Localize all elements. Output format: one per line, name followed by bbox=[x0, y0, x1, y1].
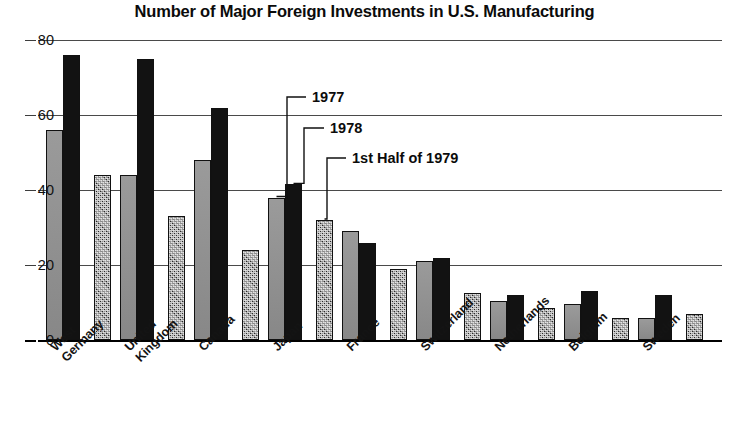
bar bbox=[120, 175, 137, 340]
bar bbox=[194, 160, 211, 340]
bar bbox=[612, 318, 629, 341]
bar bbox=[416, 261, 433, 340]
bar-group bbox=[490, 40, 555, 340]
chart-title: Number of Major Foreign Investments in U… bbox=[0, 2, 729, 21]
bar-group bbox=[638, 40, 703, 340]
y-tick-label-60: 60 bbox=[2, 107, 54, 123]
bar-group bbox=[268, 40, 333, 340]
bar bbox=[268, 198, 285, 341]
bar bbox=[285, 184, 302, 340]
bar bbox=[242, 250, 259, 340]
bar-group bbox=[416, 40, 481, 340]
callout-label: 1977 bbox=[312, 89, 344, 105]
bar-group bbox=[194, 40, 259, 340]
bar-group bbox=[46, 40, 111, 340]
plot-area bbox=[38, 40, 722, 340]
bar-group bbox=[564, 40, 629, 340]
bar bbox=[63, 55, 80, 340]
bar bbox=[686, 314, 703, 340]
y-tick-label-40: 40 bbox=[2, 182, 54, 198]
bar-group bbox=[120, 40, 185, 340]
bar-chart: Number of Major Foreign Investments in U… bbox=[0, 0, 729, 432]
bar bbox=[342, 231, 359, 340]
callout-label: 1978 bbox=[330, 120, 362, 136]
bar bbox=[390, 269, 407, 340]
bar bbox=[137, 59, 154, 340]
bar bbox=[46, 130, 63, 340]
bar bbox=[316, 220, 333, 340]
y-tick-label-20: 20 bbox=[2, 257, 54, 273]
bar bbox=[211, 108, 228, 341]
y-tick-label-80: 80 bbox=[2, 32, 54, 48]
bar-group bbox=[342, 40, 407, 340]
y-tick-label-0: 0 bbox=[2, 332, 54, 348]
callout-label: 1st Half of 1979 bbox=[352, 150, 458, 166]
